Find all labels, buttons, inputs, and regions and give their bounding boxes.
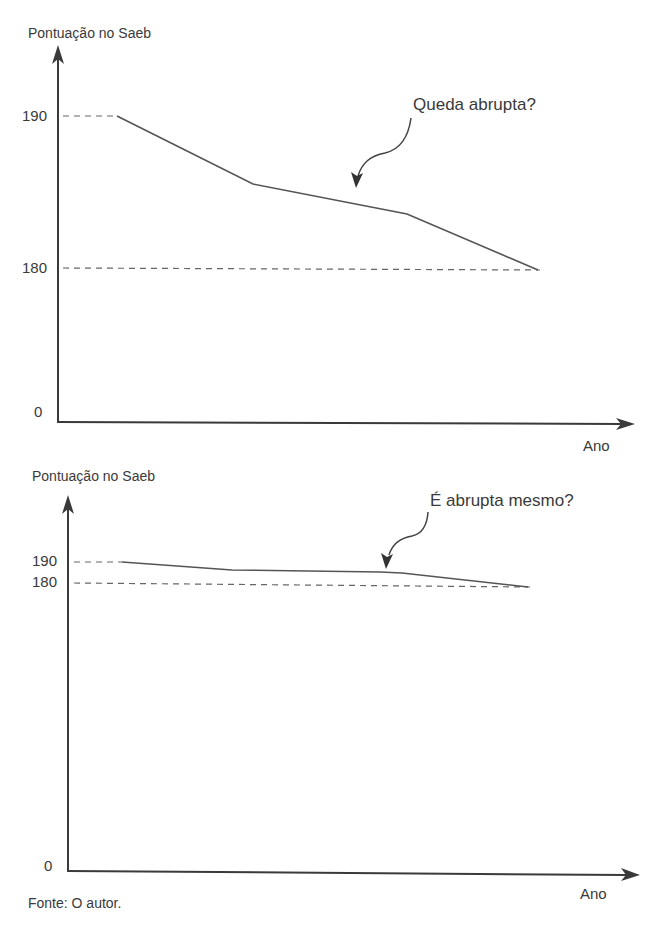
x-axis: [67, 868, 640, 881]
y-tick-0: 0: [44, 857, 52, 874]
x-axis: [57, 418, 635, 430]
chart-full-axis: Pontuação no Saeb 190 180 0 É abrupta me…: [0, 465, 662, 885]
chart-truncated-axis: Pontuação no Saeb 190 180 0 Queda abrupt…: [0, 0, 662, 465]
ref-line-180: [74, 583, 530, 587]
ref-line-180: [63, 268, 540, 270]
x-axis-label: Ano: [580, 885, 607, 902]
y-axis-label: Pontuação no Saeb: [28, 25, 151, 41]
data-line: [117, 116, 538, 270]
y-axis: [62, 495, 74, 870]
annotation-arrow-icon: [358, 118, 411, 176]
y-tick-0: 0: [34, 403, 42, 420]
y-tick-190: 190: [22, 107, 47, 124]
y-tick-180: 180: [32, 573, 57, 590]
y-tick-180: 180: [22, 259, 47, 276]
annotation-text: Queda abrupta?: [413, 95, 536, 115]
data-line: [122, 562, 528, 587]
y-axis-label: Pontuação no Saeb: [32, 468, 155, 484]
chart-top-plot: [0, 0, 662, 465]
annotation-text: É abrupta mesmo?: [430, 491, 574, 511]
source-caption: Fonte: O autor.: [28, 895, 121, 911]
y-axis: [52, 45, 64, 422]
chart-bottom-plot: [0, 465, 662, 885]
y-tick-190: 190: [32, 552, 57, 569]
annotation-arrow-icon: [389, 512, 428, 555]
x-axis-label: Ano: [583, 437, 610, 454]
